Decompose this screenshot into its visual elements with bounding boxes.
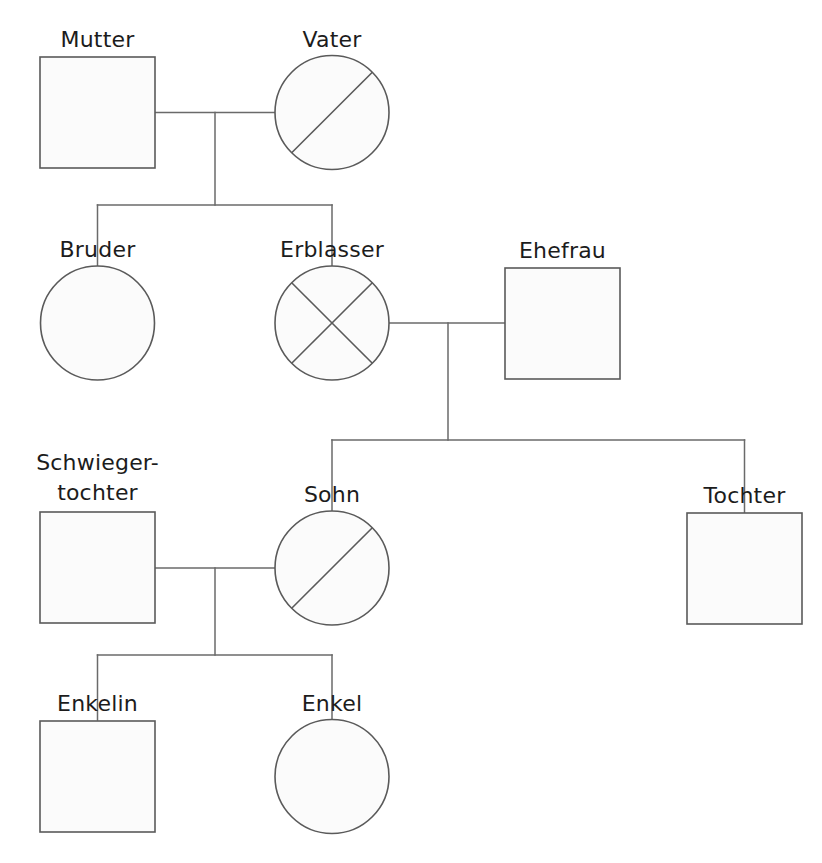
family-tree-diagram: Mutter Vater Bruder Erblasser Ehefrau Sc… [0, 0, 822, 863]
node-vater[interactable]: Vater [275, 27, 389, 170]
node-enkelin[interactable]: Enkelin [40, 691, 155, 832]
node-shape-square-schwiegertochter[interactable] [40, 512, 155, 623]
node-label-ehefrau: Ehefrau [519, 238, 606, 263]
node-label-mutter: Mutter [61, 27, 136, 52]
node-shape-square-tochter[interactable] [687, 513, 802, 624]
node-schwiegertochter[interactable]: Schwieger- tochter [36, 450, 159, 623]
node-label-tochter: Tochter [703, 483, 787, 508]
node-label-enkelin: Enkelin [57, 691, 138, 716]
node-shape-circle-bruder[interactable] [41, 266, 155, 380]
node-label-enkel: Enkel [302, 691, 362, 716]
node-erblasser[interactable]: Erblasser [275, 237, 389, 380]
node-shape-square-mutter[interactable] [40, 57, 155, 168]
node-label-sohn: Sohn [304, 482, 360, 507]
node-ehefrau[interactable]: Ehefrau [505, 238, 620, 379]
node-sohn[interactable]: Sohn [275, 482, 389, 625]
node-label-vater: Vater [302, 27, 362, 52]
node-label-bruder: Bruder [60, 237, 137, 262]
node-bruder[interactable]: Bruder [41, 237, 155, 380]
node-label-schwiegertochter-line1: Schwieger- [36, 450, 159, 475]
node-shape-square-ehefrau[interactable] [505, 268, 620, 379]
node-mutter[interactable]: Mutter [40, 27, 155, 168]
node-shape-square-enkelin[interactable] [40, 721, 155, 832]
node-shape-circle-enkel[interactable] [275, 720, 389, 834]
node-enkel[interactable]: Enkel [275, 691, 389, 834]
genogram-canvas: Mutter Vater Bruder Erblasser Ehefrau Sc… [0, 0, 822, 863]
node-tochter[interactable]: Tochter [687, 483, 802, 624]
node-label-erblasser: Erblasser [280, 237, 385, 262]
node-label-schwiegertochter-line2: tochter [57, 480, 138, 505]
